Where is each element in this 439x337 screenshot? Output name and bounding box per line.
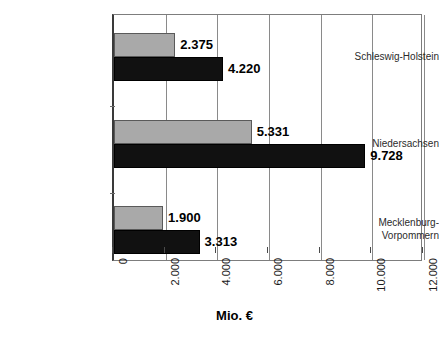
y-axis-tick — [110, 106, 115, 107]
x-axis-tick — [164, 247, 165, 253]
bar-value-label: 5.331 — [257, 120, 290, 144]
bar-chart: 2.3754.2205.3319.7281.9003.313 Schleswig… — [0, 0, 439, 337]
category-label: Schleswig-Holstein — [331, 50, 439, 63]
category-label: Mecklenburg- Vorpommern — [331, 216, 439, 242]
bar-value-label: 4.220 — [228, 57, 261, 81]
x-axis-tick-label: 10.000 — [375, 258, 387, 292]
bar-value-label: 1.900 — [168, 206, 201, 230]
x-axis-tick-label: 6.000 — [272, 258, 284, 286]
x-axis-tick-label: 2.000 — [169, 258, 181, 286]
x-axis-tick — [319, 247, 320, 253]
x-axis-tick — [370, 247, 371, 253]
bar-value-label: 2.375 — [180, 33, 213, 57]
bar — [114, 33, 175, 57]
bar — [114, 230, 200, 254]
x-axis-tick-label: 12.000 — [427, 258, 439, 292]
x-axis-tick-label: 4.000 — [220, 258, 232, 286]
x-axis-tick — [422, 247, 423, 253]
y-axis-tick — [110, 193, 115, 194]
x-axis-tick-label: 0 — [117, 258, 129, 264]
bar — [114, 120, 252, 144]
category-label: Niedersachsen — [331, 137, 439, 150]
x-axis-tick — [112, 247, 113, 253]
gridline — [321, 15, 322, 260]
x-axis-tick — [215, 247, 216, 253]
bar — [114, 144, 365, 168]
x-axis-title-text: Mio. € — [216, 308, 253, 323]
x-axis-title: Mio. € — [0, 308, 439, 323]
bar-value-label: 3.313 — [205, 230, 238, 254]
bar — [114, 57, 223, 81]
x-axis-tick-label: 8.000 — [324, 258, 336, 286]
bar — [114, 206, 163, 230]
x-axis-tick — [267, 247, 268, 253]
